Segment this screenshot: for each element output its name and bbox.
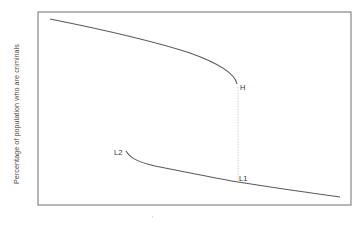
plot-frame	[38, 12, 351, 205]
lower-branch-curve	[126, 151, 340, 197]
stray-mark	[152, 216, 153, 218]
label-l1: L1	[239, 175, 247, 183]
hysteresis-diagram: Percentage of population who are crimina…	[0, 0, 361, 229]
label-h: H	[240, 84, 245, 92]
y-axis-label: Percentage of population who are crimina…	[12, 44, 21, 184]
diagram-canvas	[0, 0, 361, 229]
label-l2: L2	[114, 149, 122, 157]
upper-branch-curve	[50, 19, 237, 84]
